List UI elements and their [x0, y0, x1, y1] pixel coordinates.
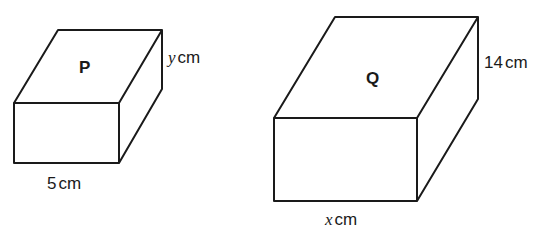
cuboid-p-front-face — [14, 103, 119, 163]
cuboid-q-height-value: 14 — [484, 53, 503, 72]
cuboid-p-width-label: 5cm — [47, 175, 81, 192]
cuboid-q-top-face — [274, 17, 478, 118]
cuboid-q-width-label: xcm — [325, 211, 357, 228]
cuboid-p-width-unit: cm — [58, 174, 81, 193]
cuboid-q-width-var: x — [325, 210, 333, 229]
cuboid-q-height-label: 14cm — [484, 54, 528, 71]
cuboid-p-height-label: ycm — [168, 49, 200, 66]
cuboid-p-label: P — [79, 59, 90, 76]
cuboid-p-width-value: 5 — [47, 174, 56, 193]
cuboid-p-height-unit: cm — [178, 48, 201, 67]
cuboid-p-side-face — [119, 30, 162, 163]
cuboid-q — [274, 17, 478, 201]
cuboid-q-width-unit: cm — [335, 210, 358, 229]
cuboid-q-side-face — [417, 17, 478, 201]
cuboid-diagram — [0, 0, 546, 243]
cuboid-p-height-var: y — [168, 48, 176, 67]
cuboid-q-label: Q — [366, 70, 379, 87]
cuboid-q-height-unit: cm — [505, 53, 528, 72]
cuboid-p — [14, 30, 162, 163]
cuboid-q-front-face — [274, 118, 417, 201]
